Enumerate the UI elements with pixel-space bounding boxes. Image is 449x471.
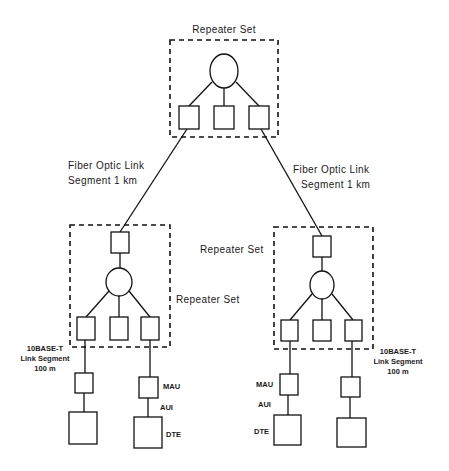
top-repeater-set-label: Repeater Set xyxy=(192,24,256,35)
left-fiber-port xyxy=(111,232,129,253)
left-station-2: MAU AUI DTE xyxy=(134,340,181,448)
right-10baset-label-3: 100 m xyxy=(387,367,409,376)
left-port-2 xyxy=(110,317,128,340)
right-dte-1 xyxy=(274,415,301,445)
network-diagram: Repeater Set Fiber Optic Link Segment 1 … xyxy=(0,0,449,471)
right-mau-2 xyxy=(341,377,360,397)
right-port-1 xyxy=(281,320,298,341)
left-mau-2 xyxy=(139,377,158,398)
left-dte-label: DTE xyxy=(166,430,181,439)
right-10baset-label-1: 10BASE-T xyxy=(380,347,417,356)
left-dte-1 xyxy=(69,412,97,444)
left-repeater-hub xyxy=(106,268,132,296)
top-repeater-hub xyxy=(210,54,238,88)
left-repeater-set xyxy=(70,225,170,347)
left-10baset-label-3: 100 m xyxy=(34,364,56,373)
right-mau-1 xyxy=(280,374,298,395)
left-repeater-set-label: Repeater Set xyxy=(176,294,240,305)
top-port-right xyxy=(249,106,269,129)
fiber-left-label-2: Segment 1 km xyxy=(68,175,137,186)
right-station-1: MAU AUI DTE xyxy=(254,341,301,445)
top-port-left xyxy=(179,106,199,129)
left-mau-label: MAU xyxy=(163,382,180,391)
top-port-mid xyxy=(214,106,234,129)
right-aui-label: AUI xyxy=(258,400,271,409)
left-dte-2 xyxy=(134,417,162,448)
left-port-3 xyxy=(141,317,159,340)
right-10baset-label-2: Link Segment xyxy=(373,357,423,366)
right-repeater-set xyxy=(274,227,373,349)
left-port-1 xyxy=(77,317,95,340)
left-10baset-label-1: 10BASE-T xyxy=(27,344,64,353)
right-port-2 xyxy=(313,320,331,341)
right-port-3 xyxy=(345,320,362,341)
left-station-1 xyxy=(69,340,97,444)
right-station-2 xyxy=(337,341,366,447)
left-aui-label: AUI xyxy=(160,403,173,412)
left-10baset-label-2: Link Segment xyxy=(20,354,70,363)
fiber-right-label-1: Fiber Optic Link xyxy=(293,164,370,175)
left-mau-1 xyxy=(75,373,93,393)
right-mau-label: MAU xyxy=(256,380,273,389)
top-repeater-set: Repeater Set xyxy=(170,24,278,137)
right-dte-label: DTE xyxy=(254,427,269,436)
right-dte-2 xyxy=(337,418,366,447)
fiber-left-label-1: Fiber Optic Link xyxy=(68,160,145,171)
right-repeater-set-label: Repeater Set xyxy=(200,244,264,255)
right-repeater-hub xyxy=(310,271,334,299)
right-fiber-port xyxy=(313,236,331,257)
fiber-right-label-2: Segment 1 km xyxy=(301,179,370,190)
